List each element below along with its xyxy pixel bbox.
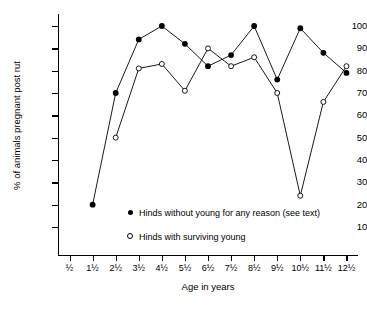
y-tick-label: 40 <box>319 155 367 165</box>
x-tick <box>323 255 324 261</box>
x-tick <box>70 255 71 261</box>
x-tick <box>231 255 232 261</box>
chart-figure: 102030405060708090100 ½1½2½3½4½5½6½7½8½9… <box>0 0 367 310</box>
y-tick <box>52 205 58 206</box>
data-point-open <box>182 88 187 93</box>
y-tick <box>52 93 58 94</box>
y-tick <box>52 182 58 183</box>
x-tick <box>185 255 186 261</box>
data-point-open <box>136 66 141 71</box>
open-circle-icon <box>124 232 136 243</box>
y-tick-label: 70 <box>319 88 367 98</box>
data-point-filled <box>274 77 280 83</box>
data-point-filled <box>251 23 257 29</box>
series-line-1 <box>116 48 347 195</box>
data-point-filled <box>136 37 142 43</box>
y-tick <box>52 160 58 161</box>
x-tick-label: 12½ <box>326 263 366 273</box>
filled-circle-icon <box>124 208 136 219</box>
y-tick <box>52 26 58 27</box>
x-tick <box>139 255 140 261</box>
y-tick <box>52 115 58 116</box>
data-point-filled <box>297 25 303 31</box>
x-tick <box>116 255 117 261</box>
data-point-open <box>252 55 257 60</box>
legend-label: Hinds without young for any reason (see … <box>136 208 320 219</box>
data-point-filled <box>159 23 165 29</box>
legend-label: Hinds with surviving young <box>136 232 246 243</box>
data-point-open <box>298 193 303 198</box>
x-tick <box>346 255 347 261</box>
y-tick-label: 100 <box>319 21 367 31</box>
x-tick <box>93 255 94 261</box>
series-line-0 <box>93 26 347 205</box>
data-point-open <box>275 91 280 96</box>
x-tick <box>300 255 301 261</box>
y-tick-label: 90 <box>319 43 367 53</box>
data-point-filled <box>113 90 119 96</box>
y-axis-line <box>58 14 59 256</box>
y-tick <box>52 138 58 139</box>
data-point-filled <box>205 63 211 69</box>
data-point-filled <box>90 202 96 208</box>
y-tick <box>52 48 58 49</box>
x-tick <box>208 255 209 261</box>
data-point-open <box>159 61 164 66</box>
data-point-filled <box>182 41 188 47</box>
legend-entry-hinds-without-young: Hinds without young for any reason (see … <box>124 208 320 219</box>
y-tick-label: 60 <box>319 110 367 120</box>
y-axis-title: % of animals pregnant post rut <box>11 26 22 226</box>
x-tick <box>277 255 278 261</box>
data-point-filled <box>228 52 234 58</box>
legend-entry-hinds-with-surviving-young: Hinds with surviving young <box>124 232 246 243</box>
x-axis-title: Age in years <box>58 281 358 292</box>
data-point-open <box>229 64 234 69</box>
y-tick <box>52 227 58 228</box>
data-point-open <box>321 99 326 104</box>
y-tick-label: 10 <box>319 222 367 232</box>
y-tick-label: 80 <box>319 66 367 76</box>
data-point-open <box>206 46 211 51</box>
y-tick-label: 30 <box>319 177 367 187</box>
y-tick <box>52 71 58 72</box>
data-point-open <box>113 135 118 140</box>
y-tick-label: 20 <box>319 200 367 210</box>
x-tick <box>162 255 163 261</box>
x-tick <box>254 255 255 261</box>
y-tick-label: 50 <box>319 133 367 143</box>
